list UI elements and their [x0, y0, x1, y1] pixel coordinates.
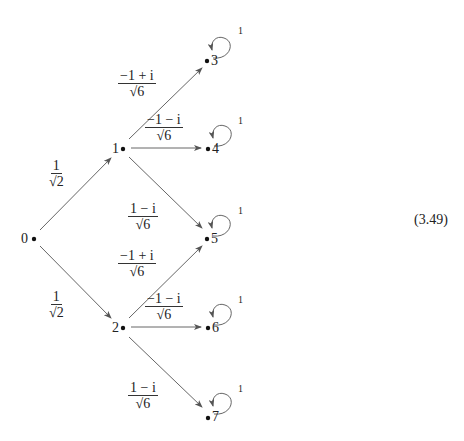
denominator: √2 — [47, 305, 66, 320]
numerator: −1 + i — [118, 248, 156, 264]
self-loop-label-7: 1 — [238, 384, 243, 394]
edge-weight-0-1: 1 √2 — [47, 158, 66, 189]
node-dot-5 — [205, 237, 209, 241]
denominator: √6 — [134, 396, 153, 411]
edge-weight-2-7: 1 − i √6 — [128, 380, 158, 411]
node-dot-7 — [206, 416, 210, 420]
denominator: √6 — [155, 307, 174, 322]
node-dot-1 — [121, 147, 125, 151]
denominator: √6 — [134, 217, 153, 232]
node-label-4: 4 — [212, 142, 219, 156]
node-dot-6 — [206, 326, 210, 330]
node-label-0: 0 — [21, 232, 28, 246]
edge-weight-2-5: −1 + i √6 — [118, 248, 156, 279]
node-label-1: 1 — [112, 142, 119, 156]
node-label-7: 7 — [212, 410, 219, 424]
edge-weight-1-3: −1 + i √6 — [118, 68, 156, 99]
self-loop-label-3: 1 — [238, 26, 243, 36]
node-label-6: 6 — [212, 321, 219, 335]
numerator: 1 − i — [128, 201, 158, 217]
numerator: 1 − i — [128, 380, 158, 396]
denominator: √6 — [155, 128, 174, 143]
numerator: 1 — [51, 158, 62, 174]
denominator: √6 — [128, 264, 147, 279]
numerator: −1 + i — [118, 68, 156, 84]
edge-weight-2-6: −1 − i √6 — [145, 291, 183, 322]
equation-number: (3.49) — [414, 212, 448, 228]
self-loop-label-6: 1 — [238, 295, 243, 305]
diagram-canvas — [0, 0, 464, 441]
node-label-3: 3 — [211, 54, 218, 68]
numerator: 1 — [51, 289, 62, 305]
node-dot-0 — [32, 237, 36, 241]
edge-weight-1-4: −1 − i √6 — [145, 112, 183, 143]
denominator: √2 — [47, 174, 66, 189]
node-dot-2 — [121, 326, 125, 330]
numerator: −1 − i — [145, 291, 183, 307]
numerator: −1 − i — [145, 112, 183, 128]
node-label-5: 5 — [211, 232, 218, 246]
node-dot-4 — [206, 147, 210, 151]
self-loop-label-4: 1 — [238, 116, 243, 126]
node-dot-3 — [205, 59, 209, 63]
edge-weight-0-2: 1 √2 — [47, 289, 66, 320]
self-loop-label-5: 1 — [238, 206, 243, 216]
node-label-2: 2 — [112, 321, 119, 335]
denominator: √6 — [128, 84, 147, 99]
edge-weight-1-5: 1 − i √6 — [128, 201, 158, 232]
